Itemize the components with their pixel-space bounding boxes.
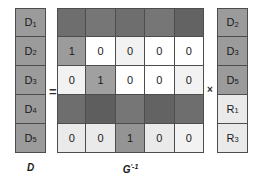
cell-subscript: 1 — [32, 21, 36, 29]
right-vector-cell: D5 — [217, 66, 248, 95]
matrix-cell: 0 — [86, 124, 115, 153]
cell-subscript: 5 — [234, 78, 238, 86]
figure-canvas: D1D2D3D4D5 = 100000100000100 × D2D3D5R1R… — [0, 0, 262, 185]
matrix-cell: 0 — [57, 124, 86, 153]
cell-label: D — [24, 17, 32, 28]
caption-g-superscript: '-1 — [130, 163, 138, 170]
left-vector-cell: D2 — [15, 37, 46, 66]
cell-label: D — [24, 46, 32, 57]
left-vector-cell: D4 — [15, 95, 46, 124]
right-vector: D2D3D5R1R3 — [217, 8, 248, 153]
matrix-cell: 0 — [116, 66, 145, 95]
multiply-operator: × — [207, 85, 213, 95]
matrix-cell — [86, 95, 115, 124]
matrix-cell: 0 — [145, 124, 174, 153]
cell-label: D — [24, 104, 32, 115]
caption-d: D — [15, 163, 46, 173]
cell-label: D — [24, 75, 32, 86]
matrix-row — [57, 8, 204, 37]
left-vector-d: D1D2D3D4D5 — [15, 8, 46, 153]
matrix-cell: 0 — [145, 37, 174, 66]
right-vector-cell: R3 — [217, 124, 248, 153]
cell-label: D — [226, 75, 234, 86]
matrix-cell: 0 — [145, 66, 174, 95]
left-vector-cell: D3 — [15, 66, 46, 95]
cell-label: R — [226, 133, 234, 144]
matrix-cell: 0 — [175, 66, 204, 95]
matrix-cell — [116, 95, 145, 124]
matrix-g-inverse: 100000100000100 — [57, 8, 204, 153]
cell-subscript: 2 — [234, 21, 238, 29]
cell-label: D — [226, 46, 234, 57]
cell-subscript: 1 — [234, 107, 238, 115]
cell-label: R — [226, 104, 234, 115]
matrix-cell — [86, 8, 115, 37]
cell-label: D — [226, 17, 234, 28]
matrix-cell — [145, 8, 174, 37]
right-vector-cell: R1 — [217, 95, 248, 124]
right-vector-cell: D2 — [217, 8, 248, 37]
cell-subscript: 3 — [32, 78, 36, 86]
equals-operator: = — [49, 85, 57, 98]
cell-subscript: 4 — [32, 107, 36, 115]
cell-label: D — [24, 133, 32, 144]
matrix-cell: 0 — [57, 66, 86, 95]
cell-subscript: 2 — [32, 49, 36, 57]
matrix-cell: 0 — [86, 37, 115, 66]
left-vector-cell: D1 — [15, 8, 46, 37]
matrix-cell: 1 — [86, 66, 115, 95]
cell-subscript: 3 — [234, 49, 238, 57]
matrix-cell — [145, 95, 174, 124]
matrix-cell: 1 — [57, 37, 86, 66]
matrix-cell — [57, 8, 86, 37]
matrix-cell — [116, 8, 145, 37]
matrix-cell — [175, 95, 204, 124]
matrix-cell — [57, 95, 86, 124]
matrix-row: 01000 — [57, 66, 204, 95]
caption-g-inverse: G'-1 — [57, 163, 204, 175]
matrix-row: 10000 — [57, 37, 204, 66]
matrix-row — [57, 95, 204, 124]
matrix-row: 00100 — [57, 124, 204, 153]
cell-subscript: 3 — [234, 136, 238, 144]
matrix-cell: 0 — [175, 37, 204, 66]
matrix-cell: 1 — [116, 124, 145, 153]
left-vector-cell: D5 — [15, 124, 46, 153]
matrix-cell — [175, 8, 204, 37]
matrix-cell: 0 — [175, 124, 204, 153]
right-vector-cell: D3 — [217, 37, 248, 66]
cell-subscript: 5 — [32, 136, 36, 144]
matrix-cell: 0 — [116, 37, 145, 66]
